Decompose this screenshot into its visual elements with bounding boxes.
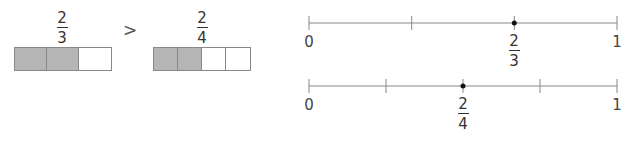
line2-start-label: 0 — [299, 96, 319, 114]
denominator: 3 — [509, 53, 519, 69]
fraction-bar — [509, 50, 520, 51]
denominator: 4 — [458, 116, 468, 132]
point-two-fourths — [461, 84, 466, 89]
line1-end-label: 1 — [607, 33, 627, 51]
point-two-thirds — [512, 21, 517, 26]
line1-point-label: 2 3 — [504, 33, 524, 69]
numerator: 2 — [509, 33, 519, 49]
number-lines — [0, 0, 637, 143]
numerator: 2 — [458, 96, 468, 112]
line2-point-label: 2 4 — [453, 96, 473, 132]
line2-end-label: 1 — [607, 96, 627, 114]
fraction-bar — [458, 113, 469, 114]
number-line-thirds — [309, 16, 617, 30]
line1-start-label: 0 — [299, 33, 319, 51]
